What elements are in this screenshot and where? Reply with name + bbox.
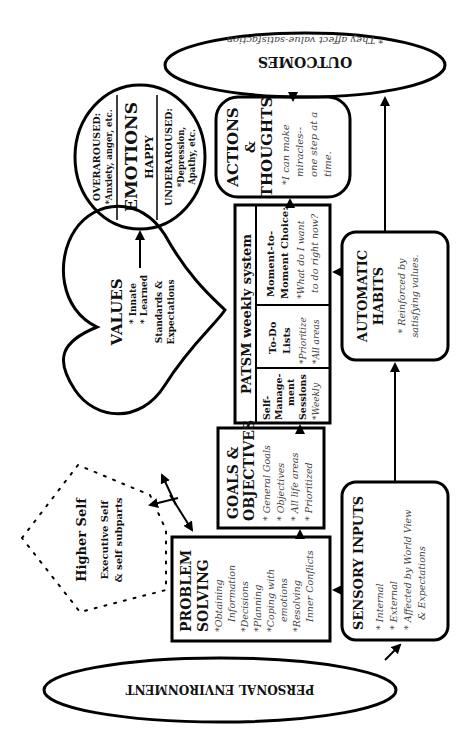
sensory-title: SENSORY INPUTS [351, 496, 366, 630]
goals-item: * All life areas [289, 453, 300, 521]
values-standards: Expectations [166, 280, 176, 345]
higher-self-node: Higher Self Executive Self & self subpar… [22, 465, 166, 612]
sensory-item: & Expectations [416, 546, 427, 620]
higher-self-sub: & self subparts [113, 497, 124, 582]
patsm-node: PATSM weekly system Self- Manage- ment S… [235, 205, 330, 423]
thoughts-title: THOUGHTS [258, 97, 276, 197]
problem-solving-item: *Decisions [239, 581, 250, 632]
patsm-self-mgmt: Self- [261, 396, 272, 420]
problem-solving-item: emotions [278, 578, 289, 622]
patsm-todo: To-Do [267, 321, 278, 354]
patsm-todo: Lists [281, 327, 292, 354]
personal-environment-node: PERSONAL ENVIRONMENT [44, 658, 396, 722]
problem-solving-item: *Planning [252, 585, 263, 632]
higher-self-title: Higher Self [74, 497, 89, 582]
problem-solving-item: Information [226, 565, 237, 623]
goals-item: * Objectives [275, 463, 286, 521]
actions-note: one step at a [308, 112, 319, 177]
values-standards: Standards & [154, 281, 164, 344]
outcomes-note: * They affect value-satisfaction [227, 35, 384, 46]
outcomes-node: OUTCOMES * They affect value-satisfactio… [165, 33, 445, 97]
goals-item: * General Goals [261, 445, 272, 521]
emotions-node: OVERAROUSED: *Anxiety, anger, etc. EMOTI… [75, 85, 205, 229]
overaroused-note: *Anxiety, anger, etc. [104, 109, 115, 204]
actions-thoughts-node: ACTIONS & THOUGHTS *I can make miracles-… [216, 97, 350, 197]
habits-note: satisfying values. [409, 254, 420, 337]
goals-objectives-node: GOALS & OBJECTIVES * General Goals * Obj… [218, 420, 324, 528]
problem-solving-item: Inner Conflicts [304, 550, 315, 623]
values-title: VALUES [108, 278, 126, 346]
sensory-item: * Internal [374, 584, 385, 630]
patsm-moment-note: to do right now? [309, 213, 320, 293]
actions-title: ACTIONS [224, 107, 242, 187]
higher-self-sub: Executive Self [99, 500, 110, 580]
patsm-moment-note: *What do I want [295, 220, 306, 299]
patsm-self-mgmt: Sessions [297, 374, 308, 420]
environment-title: PERSONAL ENVIRONMENT [125, 682, 314, 696]
patsm-self-mgmt-note: *Weekly [311, 382, 321, 420]
outcomes-title: OUTCOMES [258, 54, 352, 70]
patsm-moment: Moment Choice: [279, 207, 290, 299]
habits-note: * Reinforced by [396, 258, 407, 334]
underaroused-note: *Depression, [176, 127, 187, 188]
overaroused-label: OVERAROUSED: [91, 113, 102, 201]
goals-title: GOALS & [225, 446, 241, 519]
problem-solving-title: PROBLEM [178, 550, 194, 632]
problem-solving-title: SOLVING [195, 559, 211, 632]
actions-note: *I can make [280, 124, 291, 185]
emotions-title: EMOTIONS [121, 102, 141, 212]
values-item: * Learned [139, 274, 149, 324]
sensory-item: * Affected by World View [402, 510, 413, 630]
patsm-todo-note: *Prioritize [298, 317, 308, 364]
habits-title: HABITS [371, 267, 386, 326]
actions-amp: & [243, 141, 258, 153]
goals-item: * Prioritized [303, 462, 314, 521]
actions-note: time. [322, 151, 333, 177]
self-management-diagram: OUTCOMES * They affect value-satisfactio… [0, 0, 470, 739]
patsm-title: PATSM weekly system [239, 234, 254, 394]
habits-title: AUTOMATIC [355, 250, 370, 343]
goals-title: OBJECTIVES [241, 420, 257, 521]
sensory-inputs-node: SENSORY INPUTS * Internal * External * A… [342, 482, 448, 640]
patsm-self-mgmt: Manage- [273, 374, 284, 420]
problem-solving-item: *Obtaining [213, 580, 224, 633]
values-node: VALUES * Innate * Learned Standards & Ex… [63, 206, 225, 414]
problem-solving-node: PROBLEM SOLVING *Obtaining Information *… [172, 537, 330, 641]
emotions-happy: HAPPY [143, 135, 156, 178]
underaroused-label: UNDERAROUSED: [163, 108, 174, 206]
patsm-todo-note: *All areas [311, 319, 321, 364]
patsm-moment: Moment-to- [265, 231, 276, 297]
automatic-habits-node: AUTOMATIC HABITS * Reinforced by satisfy… [342, 232, 448, 360]
patsm-self-mgmt: ment [285, 378, 296, 406]
underaroused-note: Apathy, etc. [187, 129, 198, 186]
actions-note: miracles-- [294, 126, 305, 177]
sensory-item: * External [388, 581, 399, 630]
problem-solving-item: *Coping with [265, 569, 276, 632]
values-item: * Innate [128, 283, 138, 324]
problem-solving-item: *Resolving [291, 580, 302, 632]
